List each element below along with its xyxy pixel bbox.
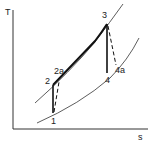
- point-label-3: 3: [102, 10, 107, 20]
- point-label-4: 4: [105, 75, 110, 85]
- point-label-4a: 4a: [115, 65, 125, 75]
- diagram-svg: T s 1 2 2a 3 4 4a: [0, 0, 157, 144]
- point-label-2: 2: [45, 76, 50, 86]
- x-axis-label: s: [138, 132, 143, 142]
- ts-diagram: T s 1 2 2a 3 4 4a: [0, 0, 157, 144]
- point-label-1: 1: [51, 116, 56, 126]
- point-label-2a: 2a: [54, 66, 64, 76]
- process-1-2a: [54, 82, 59, 112]
- y-axis-label: T: [5, 7, 11, 17]
- process-3-4a: [108, 26, 116, 65]
- high-pressure-isobar: [35, 4, 123, 103]
